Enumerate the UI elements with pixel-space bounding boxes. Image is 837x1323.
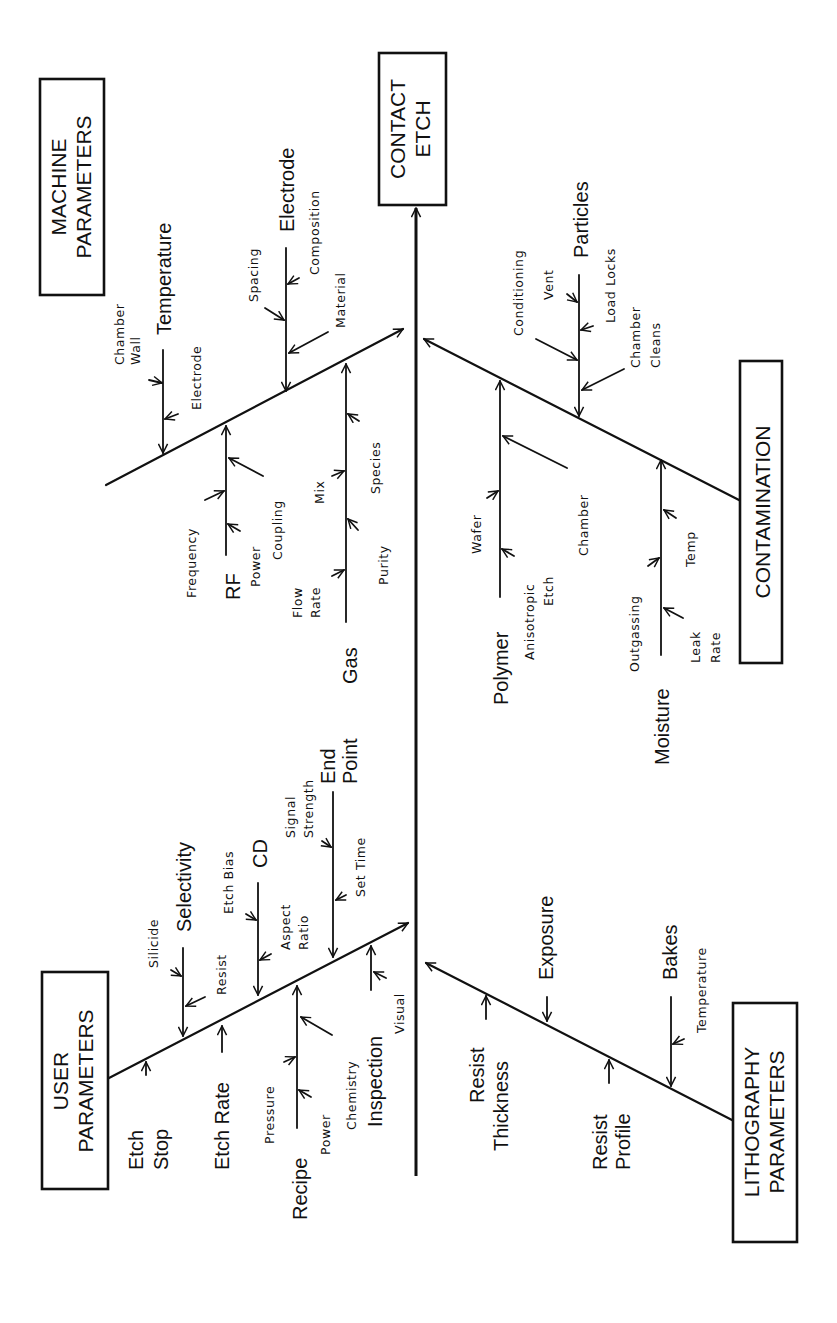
cause-moisture: Moisture <box>651 688 673 765</box>
cause-rf: RF <box>222 573 244 600</box>
sub-chemistry: Chemistry <box>344 1061 359 1130</box>
cause-exposure: Exposure <box>535 896 557 981</box>
cause-resist-thickness-2: Thickness <box>490 1061 512 1151</box>
sub-wafer: Wafer <box>469 514 484 554</box>
sub-mix: Mix <box>312 481 327 504</box>
arrow-set-time <box>336 895 346 900</box>
user-label-line2: PARAMETERS <box>74 1009 97 1152</box>
sub-temp: Temp <box>683 531 698 568</box>
sub-purity: Purity <box>376 545 391 585</box>
cause-resist-thickness-1: Resist <box>466 1047 488 1103</box>
sub-material: Material <box>333 272 348 328</box>
cause-temperature: Temperature <box>153 223 175 335</box>
sub-set-time: Set Time <box>353 837 368 897</box>
sub-chamber-cleans-2: Cleans <box>648 322 663 368</box>
arrow-chamber-wall <box>149 380 162 383</box>
sub-chamber-polymer: Chamber <box>576 494 591 556</box>
arrow-resist <box>186 997 205 1006</box>
sub-resist: Resist <box>214 954 229 995</box>
sub-chamber-wall-2: Wall <box>128 336 143 365</box>
arrow-composition <box>288 278 299 284</box>
sub-load-locks: Load Locks <box>603 248 618 323</box>
arrow-pressure <box>284 1057 295 1062</box>
sub-power-rf: Power <box>248 546 263 587</box>
arrow-mix <box>332 471 344 476</box>
arrow-leak-rate <box>664 608 683 618</box>
arrow-spacing <box>265 308 284 320</box>
sub-power-recipe: Power <box>318 1114 333 1155</box>
cause-etch-rate: Etch Rate <box>211 1082 233 1170</box>
sub-chamber-cleans-1: Chamber <box>628 306 643 368</box>
arrow-temperature-bakes <box>673 1039 684 1044</box>
fishbone-diagram: CONTACT ETCH MACHINE PARAMETERS Temperat… <box>0 0 837 1323</box>
category-lithography-parameters: LITHOGRAPHY PARAMETERS Resist Thickness … <box>426 896 797 1243</box>
arrow-silicide <box>171 970 181 976</box>
arrow-anisotropic-etch <box>502 549 514 556</box>
arrow-purity <box>348 519 358 530</box>
effect-label-line2: ETCH <box>411 100 434 157</box>
lithography-label-line2: PARAMETERS <box>765 1050 788 1193</box>
sub-aspect-ratio-1: Aspect <box>278 904 293 950</box>
cause-cd: CD <box>249 839 271 868</box>
sub-etch-bias: Etch Bias <box>221 851 236 914</box>
arrow-visual <box>374 972 386 978</box>
cause-resist-profile-1: Resist <box>589 1114 611 1170</box>
arrow-aspect-ratio <box>260 954 271 960</box>
sub-outgassing: Outgassing <box>627 595 642 672</box>
effect-box: CONTACT ETCH <box>379 53 446 205</box>
arrow-species <box>348 414 359 421</box>
cause-end-point-1: End <box>317 748 339 784</box>
arrow-material <box>289 332 328 353</box>
cause-etch-stop-1: Etch <box>125 1130 147 1170</box>
sub-anisotropic-etch-1: Anisotropic <box>522 584 537 660</box>
sub-flow-rate-2: Rate <box>308 587 323 618</box>
arrow-signal-strength <box>322 841 331 847</box>
cause-end-point-2: Point <box>339 738 361 784</box>
sub-signal-strength-2: Strength <box>301 779 316 838</box>
sub-temperature-bakes: Temperature <box>694 947 709 1034</box>
arrow-vent <box>567 294 577 302</box>
cause-bakes: Bakes <box>659 924 681 980</box>
arrow-power-recipe <box>299 1090 311 1097</box>
cause-selectivity: Selectivity <box>173 842 195 932</box>
sub-conditioning: Conditioning <box>511 250 526 336</box>
arrow-electrode-temp <box>165 414 178 419</box>
arrow-etch-bias <box>246 914 256 920</box>
arrow-chamber-polymer <box>503 436 567 468</box>
sub-pressure: Pressure <box>262 1086 277 1144</box>
sub-species: Species <box>368 442 383 494</box>
sub-electrode: Electrode <box>189 346 204 410</box>
cause-inspection: Inspection <box>364 1036 386 1127</box>
sub-aspect-ratio-2: Ratio <box>296 915 311 950</box>
machine-label-line1: MACHINE <box>47 139 70 236</box>
sub-frequency: Frequency <box>184 528 199 598</box>
sub-anisotropic-etch-2: Etch <box>541 576 556 606</box>
arrow-conditioning <box>536 339 577 360</box>
effect-label-line1: CONTACT <box>386 79 409 179</box>
sub-composition: Composition <box>307 190 322 275</box>
lithography-label-line1: LITHOGRAPHY <box>740 1047 763 1198</box>
sub-spacing: Spacing <box>246 248 261 302</box>
cause-polymer: Polymer <box>490 631 512 705</box>
category-contamination: CONTAMINATION Particles Conditioning Ven… <box>424 181 782 765</box>
cause-recipe: Recipe <box>289 1158 311 1220</box>
arrow-wafer <box>487 491 498 498</box>
arrow-load-locks <box>581 326 593 330</box>
sub-visual: Visual <box>392 993 407 1034</box>
sub-chamber-wall-1: Chamber <box>112 303 127 365</box>
cause-electrode: Electrode <box>276 148 298 233</box>
user-label-line1: USER <box>49 1052 72 1110</box>
machine-label-line2: PARAMETERS <box>72 115 95 258</box>
arrow-chemistry <box>301 1017 332 1035</box>
cause-particles: Particles <box>570 181 592 258</box>
sub-leak-rate-2: Rate <box>708 632 723 663</box>
arrow-flow-rate <box>332 570 344 576</box>
sub-vent: Vent <box>541 270 556 301</box>
cause-etch-stop-2: Stop <box>150 1129 172 1170</box>
arrow-power-rf <box>228 524 240 531</box>
arrow-frequency <box>205 491 224 500</box>
sub-coupling: Coupling <box>270 500 285 560</box>
sub-silicide: Silicide <box>146 919 161 968</box>
machine-main-bone <box>106 329 403 485</box>
arrow-coupling <box>229 458 263 476</box>
